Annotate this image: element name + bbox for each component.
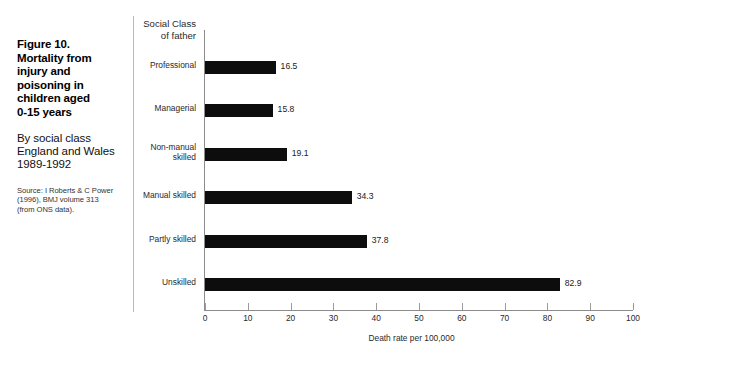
bar-value-label: 82.9 bbox=[565, 277, 582, 290]
x-axis-title: Death rate per 100,000 bbox=[0, 333, 729, 343]
x-tick-mark bbox=[291, 303, 292, 310]
bar-row: 82.9 bbox=[205, 278, 600, 291]
bar-value-label: 19.1 bbox=[292, 147, 309, 160]
bar bbox=[205, 191, 352, 204]
x-tick-label: 60 bbox=[449, 313, 475, 323]
x-tick-mark bbox=[462, 303, 463, 310]
x-tick-label: 10 bbox=[235, 313, 261, 323]
x-tick-label: 70 bbox=[492, 313, 518, 323]
bar-value-label: 16.5 bbox=[281, 60, 298, 73]
bar bbox=[205, 235, 367, 248]
bar bbox=[205, 104, 273, 117]
category-label: Professional bbox=[128, 61, 196, 71]
x-tick-mark bbox=[419, 303, 420, 310]
x-tick-mark bbox=[590, 303, 591, 310]
x-tick-mark bbox=[205, 303, 206, 310]
bar-value-label: 15.8 bbox=[278, 103, 295, 116]
bar-chart: Social Class of father Professional16.5M… bbox=[0, 0, 729, 374]
bar-row: 37.8 bbox=[205, 235, 407, 248]
x-tick-label: 50 bbox=[406, 313, 432, 323]
category-label: Non-manual skilled bbox=[128, 143, 196, 163]
x-tick-label: 20 bbox=[278, 313, 304, 323]
x-tick-label: 100 bbox=[620, 313, 646, 323]
x-tick-mark bbox=[547, 303, 548, 310]
x-tick-label: 80 bbox=[534, 313, 560, 323]
bar-row: 16.5 bbox=[205, 61, 316, 74]
bar-row: 15.8 bbox=[205, 104, 313, 117]
category-label: Manual skilled bbox=[128, 191, 196, 201]
x-tick-label: 90 bbox=[577, 313, 603, 323]
bar-value-label: 37.8 bbox=[372, 234, 389, 247]
bar-value-label: 34.3 bbox=[357, 190, 374, 203]
x-tick-mark bbox=[248, 303, 249, 310]
bar bbox=[205, 61, 276, 74]
x-tick-mark bbox=[633, 303, 634, 310]
x-tick-mark bbox=[333, 303, 334, 310]
category-label: Managerial bbox=[128, 104, 196, 114]
x-tick-label: 30 bbox=[320, 313, 346, 323]
bar bbox=[205, 148, 287, 161]
x-tick-mark bbox=[376, 303, 377, 310]
bar bbox=[205, 278, 560, 291]
value-axis-line bbox=[204, 310, 633, 311]
x-tick-label: 40 bbox=[363, 313, 389, 323]
category-label: Unskilled bbox=[128, 278, 196, 288]
bar-row: 19.1 bbox=[205, 148, 327, 161]
x-tick-label: 0 bbox=[192, 313, 218, 323]
y-axis-title: Social Class of father bbox=[118, 18, 196, 42]
category-label: Partly skilled bbox=[128, 235, 196, 245]
bar-row: 34.3 bbox=[205, 191, 392, 204]
x-tick-mark bbox=[505, 303, 506, 310]
x-axis-title-text: Death rate per 100,000 bbox=[368, 333, 454, 343]
